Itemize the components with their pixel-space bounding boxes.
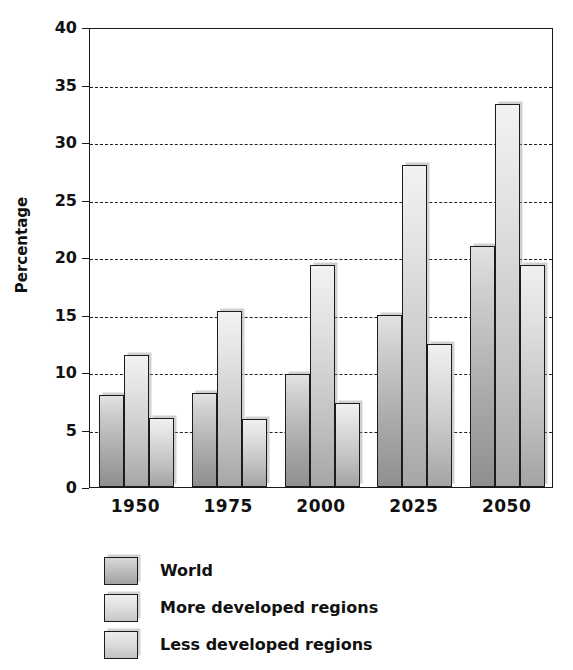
- legend-label: More developed regions: [160, 598, 378, 617]
- plot-area: [89, 28, 553, 488]
- legend-label: World: [160, 561, 213, 580]
- bar-group: [192, 29, 267, 487]
- y-axis-tick-label: 30: [17, 133, 77, 152]
- bar[interactable]: [520, 265, 545, 487]
- y-axis-tick-mark: [82, 86, 89, 87]
- legend-item[interactable]: Less developed regions: [104, 626, 378, 663]
- x-axis-tick-label: 2000: [275, 496, 368, 516]
- x-axis-tick-label: 1950: [89, 496, 182, 516]
- bar[interactable]: [402, 165, 427, 487]
- y-axis-tick-mark: [82, 201, 89, 202]
- bar[interactable]: [495, 104, 520, 487]
- y-axis-tick-mark: [82, 373, 89, 374]
- x-axis-tick-label: 1975: [182, 496, 275, 516]
- y-axis-tick-label: 10: [17, 363, 77, 382]
- y-axis-tick-mark: [82, 143, 89, 144]
- bar[interactable]: [335, 403, 360, 487]
- bar-group: [99, 29, 174, 487]
- bar[interactable]: [427, 344, 452, 487]
- legend-item[interactable]: World: [104, 552, 378, 589]
- bar[interactable]: [242, 419, 267, 487]
- y-axis-tick-label: 25: [17, 191, 77, 210]
- bar[interactable]: [285, 374, 310, 487]
- bar[interactable]: [99, 395, 124, 487]
- legend-swatch: [104, 557, 138, 585]
- y-axis-tick-mark: [82, 488, 89, 489]
- bar-groups: [90, 29, 552, 487]
- y-axis-tick-mark: [82, 28, 89, 29]
- y-axis-tick-mark: [82, 316, 89, 317]
- y-axis-tick-label: 40: [17, 18, 77, 37]
- bar-group: [377, 29, 452, 487]
- legend-swatch: [104, 631, 138, 659]
- y-axis-tick-label: 20: [17, 248, 77, 267]
- y-axis-tick-label: 5: [17, 421, 77, 440]
- bar[interactable]: [377, 315, 402, 488]
- y-axis-tick-label: 35: [17, 76, 77, 95]
- bar-group: [470, 29, 545, 487]
- legend-label: Less developed regions: [160, 635, 373, 654]
- bar-chart: Percentage 0510152025303540 195019752000…: [0, 0, 573, 670]
- y-axis-tick-mark: [82, 258, 89, 259]
- bar[interactable]: [124, 355, 149, 487]
- bar[interactable]: [310, 265, 335, 487]
- bar[interactable]: [149, 418, 174, 487]
- chart-legend: WorldMore developed regionsLess develope…: [104, 552, 378, 663]
- legend-item[interactable]: More developed regions: [104, 589, 378, 626]
- x-axis-tick-label: 2025: [367, 496, 460, 516]
- legend-swatch: [104, 594, 138, 622]
- x-axis-tick-label: 2050: [460, 496, 553, 516]
- y-axis-tick-mark: [82, 431, 89, 432]
- bar[interactable]: [192, 393, 217, 487]
- y-axis-tick-label: 0: [17, 478, 77, 497]
- bar[interactable]: [470, 246, 495, 488]
- y-axis-tick-label: 15: [17, 306, 77, 325]
- bar[interactable]: [217, 311, 242, 487]
- bar-group: [285, 29, 360, 487]
